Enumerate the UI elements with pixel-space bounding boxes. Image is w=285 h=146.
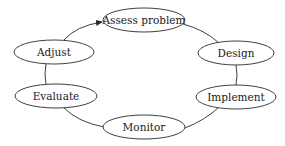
node-adjust: Adjust <box>14 40 94 64</box>
edge-evaluate-to-adjust <box>45 64 46 84</box>
node-evaluate-label: Evaluate <box>33 90 80 102</box>
cycle-diagram: Assess problem Design Implement Monitor … <box>0 0 285 146</box>
node-evaluate: Evaluate <box>15 84 97 108</box>
edge-assess-to-design <box>183 24 219 43</box>
node-design: Design <box>198 41 274 65</box>
node-implement-label: Implement <box>207 91 265 103</box>
node-monitor: Monitor <box>103 115 185 139</box>
node-assess-problem-label: Assess problem <box>101 14 185 26</box>
edge-adjust-to-assess-arrow <box>64 22 102 40</box>
node-adjust-label: Adjust <box>36 46 72 58</box>
node-implement: Implement <box>196 85 276 109</box>
edge-implement-to-monitor <box>185 108 218 128</box>
node-design-label: Design <box>218 47 255 59</box>
edge-design-to-implement <box>236 65 237 85</box>
node-monitor-label: Monitor <box>123 121 167 133</box>
edge-monitor-to-evaluate <box>64 108 104 127</box>
node-assess-problem: Assess problem <box>101 8 185 32</box>
